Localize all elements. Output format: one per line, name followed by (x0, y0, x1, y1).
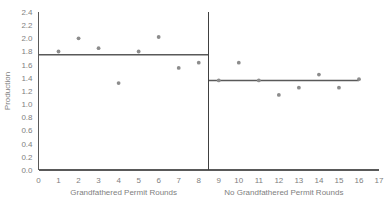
data-point (137, 50, 141, 54)
x-axis-tick-label: 4 (116, 176, 121, 185)
y-axis-tick-label: 0.0 (21, 166, 33, 175)
y-axis-tick-label: 2.4 (21, 8, 33, 17)
x-axis-tick-label: 8 (197, 176, 202, 185)
y-axis-tick-label: 1.2 (21, 87, 33, 96)
y-axis-tick-label: 0.2 (21, 153, 33, 162)
data-point (317, 73, 321, 77)
y-axis-tick-label: 0.8 (21, 113, 33, 122)
data-point (297, 86, 301, 90)
data-point (237, 61, 241, 65)
y-axis-tick-label: 1.0 (21, 100, 33, 109)
y-axis-tick-label: 1.6 (21, 61, 33, 70)
x-axis-tick-label: 0 (36, 176, 41, 185)
x-axis-tick-label: 3 (96, 176, 101, 185)
x-axis-tick-label: 5 (136, 176, 141, 185)
y-axis-title: Production (3, 72, 12, 110)
y-axis-tick-label: 2.2 (21, 21, 33, 30)
data-point (57, 50, 61, 54)
x-axis-tick-label: 2 (76, 176, 81, 185)
data-point (117, 81, 121, 85)
y-axis-tick-label: 1.4 (21, 74, 33, 83)
x-axis-tick-label: 17 (375, 176, 384, 185)
data-point (217, 79, 221, 83)
data-point (257, 79, 261, 83)
x-axis-tick-label: 11 (255, 176, 264, 185)
x-axis-title-no-grandfathered: No Grandfathered Permit Rounds (224, 188, 343, 197)
y-axis-tick-label: 1.8 (21, 47, 33, 56)
production-scatter-chart: 0.00.20.40.60.81.01.21.41.61.82.02.22.40… (0, 0, 392, 205)
y-axis-tick-label: 2.0 (21, 34, 33, 43)
x-axis-tick-label: 7 (176, 176, 181, 185)
y-axis-tick-label: 0.6 (21, 126, 33, 135)
data-point (197, 61, 201, 65)
chart-canvas: 0.00.20.40.60.81.01.21.41.61.82.02.22.40… (0, 0, 392, 205)
x-axis-tick-label: 16 (355, 176, 364, 185)
data-point (337, 86, 341, 90)
data-point (277, 93, 281, 97)
x-axis-tick-label: 6 (156, 176, 161, 185)
x-axis-title-grandfathered: Grandfathered Permit Rounds (70, 188, 177, 197)
x-axis-tick-label: 12 (274, 176, 283, 185)
data-point (97, 46, 101, 50)
x-axis-tick-label: 9 (217, 176, 222, 185)
data-point (157, 35, 161, 39)
x-axis-tick-label: 13 (294, 176, 303, 185)
x-axis-tick-label: 15 (334, 176, 343, 185)
data-point (357, 77, 361, 81)
x-axis-tick-label: 10 (234, 176, 243, 185)
x-axis-tick-label: 1 (56, 176, 61, 185)
data-point (177, 66, 181, 70)
data-point (77, 36, 81, 40)
x-axis-tick-label: 14 (314, 176, 323, 185)
y-axis-tick-label: 0.4 (21, 140, 33, 149)
